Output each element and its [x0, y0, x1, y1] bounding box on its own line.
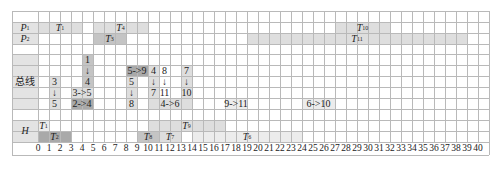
x-tick-label: 14 — [187, 143, 197, 153]
lane-label-p2-sub: 2 — [27, 36, 30, 42]
bus-transfer-text: ↓ — [47, 87, 62, 98]
task-label: T6 — [192, 131, 302, 142]
grid-line — [269, 11, 270, 142]
task-label-sub: 8 — [149, 134, 152, 140]
grid-line — [225, 11, 226, 142]
task-label: T3 — [93, 33, 126, 44]
x-tick-label: 29 — [352, 143, 362, 153]
x-tick-label: 9 — [135, 143, 140, 153]
x-tick-label: 33 — [396, 143, 406, 153]
x-tick-label: 18 — [231, 143, 241, 153]
x-tick-label: 11 — [154, 143, 163, 153]
task-label-sub: 10 — [362, 25, 368, 31]
task-label-sub: 1 — [45, 123, 48, 129]
grid-line — [423, 11, 424, 142]
grid-line — [401, 11, 402, 142]
grid-line — [247, 11, 248, 142]
task-label: T10 — [335, 22, 390, 33]
x-tick-label: 13 — [176, 143, 186, 153]
x-tick-label: 35 — [418, 143, 428, 153]
bus-transfer-text: 5 — [124, 76, 139, 87]
x-tick-label: 26 — [319, 143, 329, 153]
task-label: T8 — [137, 131, 159, 142]
bus-transfer-text: 8 — [157, 65, 172, 76]
lane-label-bus: 总线 — [12, 54, 38, 109]
bus-transfer-text: 11 — [157, 87, 172, 98]
task-label: T11 — [247, 33, 467, 44]
grid-line — [12, 22, 489, 23]
x-tick-label: 4 — [80, 143, 85, 153]
x-tick-label: 10 — [143, 143, 153, 153]
grid-line — [12, 120, 489, 121]
bus-transfer-text: 5 — [47, 98, 62, 109]
task-label-sub: 7 — [171, 134, 174, 140]
bus-transfer-text: 4 — [80, 76, 95, 87]
grid-line — [12, 109, 489, 110]
bus-transfer-text: ↓ — [80, 65, 95, 76]
x-tick-label: 17 — [220, 143, 230, 153]
bus-transfer-text: 4->6 — [148, 98, 192, 109]
x-tick-label: 31 — [374, 143, 384, 153]
task-label-sub: 9 — [188, 123, 191, 129]
grid-line — [236, 11, 237, 142]
x-tick-label: 6 — [102, 143, 107, 153]
grid-line — [489, 11, 490, 155]
grid-line — [456, 11, 457, 142]
x-tick-label: 37 — [440, 143, 450, 153]
x-tick-label: 30 — [363, 143, 373, 153]
x-tick-label: 2 — [58, 143, 63, 153]
grid-line — [258, 11, 259, 142]
x-tick-label: 16 — [209, 143, 219, 153]
bus-transfer-text: ↓ — [179, 76, 194, 87]
task-label-sub: 1 — [61, 25, 64, 31]
x-tick-label: 5 — [91, 143, 96, 153]
x-tick-label: 20 — [253, 143, 263, 153]
task-label-sub: 4 — [122, 25, 125, 31]
x-tick-label: 21 — [264, 143, 274, 153]
x-tick-label: 1 — [47, 143, 52, 153]
bus-transfer-text: 10 — [179, 87, 194, 98]
x-tick-label: 27 — [330, 143, 340, 153]
grid-line — [390, 11, 391, 142]
grid-line — [324, 11, 325, 142]
lane-label-p1-sub: 1 — [27, 25, 30, 31]
task-label-sub: 11 — [357, 36, 363, 42]
grid-line — [434, 11, 435, 142]
x-tick-label: 3 — [69, 143, 74, 153]
lane-label-h: H — [12, 120, 38, 142]
lane-label-p2: P2 — [12, 33, 38, 44]
task-label: T4 — [93, 22, 148, 33]
bus-transfer-text: 9->11 — [225, 98, 247, 109]
x-tick-label: 7 — [113, 143, 118, 153]
bus-transfer-text: 6->10 — [302, 98, 335, 109]
x-tick-label: 8 — [124, 143, 129, 153]
bus-transfer-text: 3 — [47, 76, 62, 87]
bus-transfer-text: 1 — [80, 54, 95, 65]
grid-line — [291, 11, 292, 142]
grid-line — [412, 11, 413, 142]
x-tick-label: 22 — [275, 143, 285, 153]
task-label-sub: 3 — [111, 36, 114, 42]
task-label-sub: 2 — [56, 134, 59, 140]
bus-transfer-text: 7 — [179, 65, 194, 76]
bus-transfer-text: 5->9 — [126, 65, 148, 76]
grid-line — [12, 11, 489, 12]
x-tick-label: 24 — [297, 143, 307, 153]
x-tick-label: 12 — [165, 143, 175, 153]
x-tick-label: 39 — [462, 143, 472, 153]
grid-line — [478, 11, 479, 142]
grid-line — [12, 155, 489, 156]
x-tick-label: 25 — [308, 143, 318, 153]
grid-line — [445, 11, 446, 142]
bus-transfer-text: ↓ — [124, 87, 139, 98]
lane-label-p1: P1 — [12, 22, 38, 33]
bus-transfer-text: 2->4 — [71, 98, 93, 109]
x-tick-label: 28 — [341, 143, 351, 153]
x-tick-label: 34 — [407, 143, 417, 153]
x-tick-label: 23 — [286, 143, 296, 153]
bus-transfer-text: 3->5 — [71, 87, 93, 98]
bus-transfer-text: ↓ — [157, 76, 172, 87]
task-label-sub: 6 — [248, 134, 251, 140]
x-tick-label: 19 — [242, 143, 252, 153]
x-tick-label: 15 — [198, 143, 208, 153]
